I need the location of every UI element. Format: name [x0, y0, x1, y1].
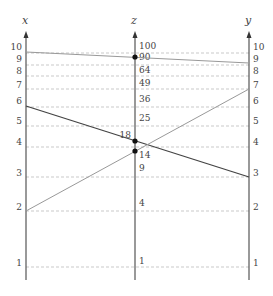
arrow-up-icon	[24, 31, 29, 38]
z-tick: 25	[139, 113, 151, 123]
x-tick: 10	[11, 42, 23, 52]
x-tick: 3	[16, 168, 22, 178]
x-tick: 6	[16, 96, 22, 106]
y-tick: 9	[253, 54, 259, 64]
x-tick: 5	[16, 116, 22, 126]
nomogram-diagram: x z y 10 9 8 7 6 5 4 3 2 1 100 90 64 49 …	[0, 0, 273, 296]
x-tick: 1	[16, 258, 22, 268]
z-tick: 4	[139, 198, 145, 208]
y-tick: 5	[253, 116, 259, 126]
y-tick: 8	[253, 66, 259, 76]
x-tick: 4	[16, 137, 22, 147]
arrow-up-icon	[133, 31, 138, 38]
z-tick: 49	[139, 78, 151, 88]
y-tick: 2	[253, 202, 259, 212]
arrow-up-icon	[247, 31, 252, 38]
z-tick: 100	[139, 41, 156, 51]
point-label-18: 18	[120, 130, 132, 140]
z-tick: 64	[139, 65, 151, 75]
z-tick: 1	[139, 256, 145, 266]
y-tick: 10	[253, 42, 265, 52]
z-axis-label: z	[130, 14, 137, 27]
y-tick: 7	[253, 80, 259, 90]
y-tick: 4	[253, 137, 259, 147]
point-z-18	[132, 138, 137, 143]
z-tick: 36	[139, 94, 151, 104]
y-tick: 1	[253, 258, 259, 268]
x-axis-label: x	[22, 14, 29, 27]
point-z-90	[132, 54, 137, 59]
y-tick: 3	[253, 168, 259, 178]
y-tick-labels: 10 9 8 7 6 5 4 3 2 1	[253, 42, 265, 268]
x-tick: 8	[16, 66, 22, 76]
y-axis-label: y	[244, 14, 252, 27]
x-tick: 7	[16, 80, 22, 90]
nomogram-canvas: x z y 10 9 8 7 6 5 4 3 2 1 100 90 64 49 …	[0, 0, 273, 296]
point-label-14: 14	[139, 150, 151, 160]
grid-lines	[26, 53, 249, 267]
z-tick: 90	[139, 52, 151, 62]
point-z-14	[132, 148, 137, 153]
z-tick: 9	[139, 163, 145, 173]
x-tick: 9	[16, 54, 22, 64]
y-tick: 6	[253, 96, 259, 106]
x-tick-labels: 10 9 8 7 6 5 4 3 2 1	[11, 42, 23, 268]
x-tick: 2	[16, 202, 22, 212]
